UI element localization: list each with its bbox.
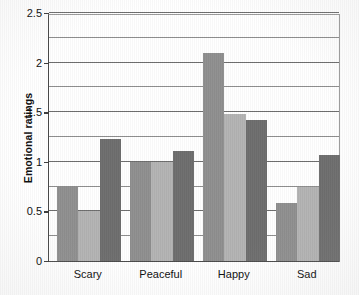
- bar-chart: Emotional ratings 00.511.522.5 ScaryPeac…: [0, 0, 359, 295]
- y-axis-title: Emotional ratings: [22, 63, 34, 213]
- y-tick-mark: [44, 63, 49, 64]
- gridline-minor: [49, 86, 339, 87]
- bar: [78, 211, 100, 261]
- bar: [224, 114, 246, 261]
- bar: [173, 151, 195, 261]
- y-tick-mark: [44, 162, 49, 163]
- gridline-major: [49, 62, 339, 63]
- bar: [203, 53, 225, 261]
- gridline-minor: [49, 136, 339, 137]
- gridline-major: [49, 111, 339, 112]
- y-tick-label: 1: [36, 156, 42, 168]
- bar: [246, 120, 268, 261]
- y-tick-mark: [44, 261, 49, 262]
- bar: [319, 155, 341, 261]
- bar: [57, 187, 79, 261]
- plot-area: 00.511.522.5: [48, 14, 340, 262]
- y-tick-mark: [44, 112, 49, 113]
- x-axis-category-label: Scary: [74, 268, 102, 280]
- y-tick-label: 0: [36, 255, 42, 267]
- gridline-major: [49, 12, 339, 13]
- bar: [276, 203, 298, 261]
- gridline-minor: [49, 186, 339, 187]
- y-tick-mark: [44, 211, 49, 212]
- y-tick-label: 2.5: [27, 7, 42, 19]
- bar: [130, 162, 152, 261]
- bar: [151, 162, 173, 261]
- x-axis-category-label: Happy: [218, 268, 250, 280]
- x-axis-category-label: Peaceful: [139, 268, 182, 280]
- x-axis-category-label: Sad: [297, 268, 317, 280]
- y-tick-label: 0.5: [27, 205, 42, 217]
- gridline-minor: [49, 37, 339, 38]
- bar: [297, 187, 319, 261]
- y-tick-label: 1.5: [27, 106, 42, 118]
- y-tick-mark: [44, 13, 49, 14]
- bar: [100, 139, 122, 261]
- gridline-major: [49, 161, 339, 162]
- y-tick-label: 2: [36, 57, 42, 69]
